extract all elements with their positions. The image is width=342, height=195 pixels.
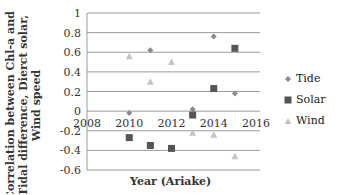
data-point-wind [189,129,196,136]
data-point-solar [231,45,238,52]
data-point-solar [189,112,196,119]
legend: Tide Solar Wind [284,68,326,131]
x-axis-label: Year (Ariake) [130,175,211,188]
y-tick-label: 0.8 [64,27,82,40]
x-tick-label: 2008 [73,117,101,130]
diamond-icon [284,75,292,83]
data-point-solar [126,134,133,141]
data-point-wind [126,53,133,60]
x-tick-label: 2010 [115,117,143,130]
y-axis-label-line: Wind speed [30,11,43,195]
data-point-solar [168,145,175,152]
y-tick-label: 1 [74,7,81,20]
legend-item-tide: Tide [284,68,326,89]
x-tick-label: 2016 [242,117,270,130]
data-point-solar [210,85,217,92]
data-point-wind [147,78,154,85]
data-point-wind [168,59,175,66]
y-axis-label-line: Correlation between Chl-a and [4,11,17,195]
y-tick-label: 0.4 [64,66,82,79]
legend-item-wind: Wind [284,110,326,131]
y-axis-label-line: Tidal difference, Dierct solar, [17,11,30,195]
triangle-icon [284,117,292,125]
x-tick-label: 2014 [200,117,228,130]
square-icon [284,96,292,104]
legend-label: Tide [296,72,320,85]
data-point-wind [210,131,217,138]
y-tick-label: 0.6 [64,46,82,59]
y-axis-label: Correlation between Chl-a and Tidal diff… [4,11,43,195]
y-tick-label: -0.4 [60,144,81,157]
y-axis-ticks: 10.80.60.40.20-0.2-0.4-0.6 [60,7,81,177]
x-axis-ticks: 20082010201220142016 [73,117,270,130]
x-tick-label: 2012 [158,117,186,130]
data-point-tide [211,34,217,40]
legend-label: Solar [296,93,326,106]
data-point-solar [147,142,154,149]
data-point-wind [231,153,238,160]
y-tick-label: 0.2 [64,86,82,99]
y-tick-label: -0.6 [60,164,81,177]
legend-label: Wind [296,114,325,127]
legend-item-solar: Solar [284,89,326,110]
